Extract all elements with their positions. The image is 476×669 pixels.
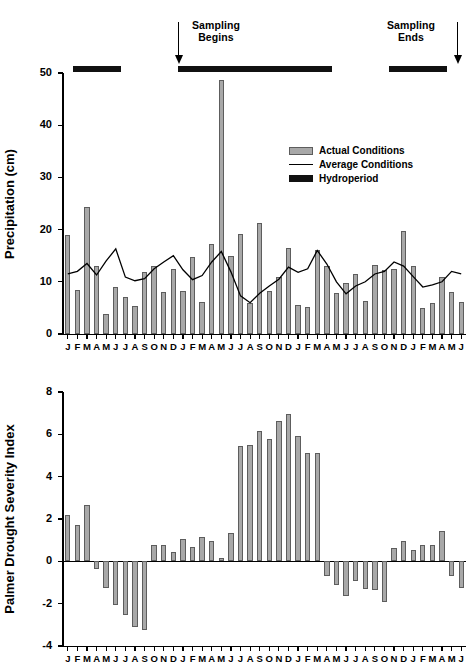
precipitation-bar	[247, 303, 252, 334]
precipitation-bar	[401, 231, 406, 334]
precipitation-bar	[94, 266, 99, 334]
pdsi-bar	[84, 505, 89, 561]
x-axis-tick	[144, 335, 145, 339]
legend-label-actual: Actual Conditions	[319, 145, 405, 156]
x-axis-tick	[461, 647, 462, 651]
legend-label-average: Average Conditions	[319, 159, 413, 170]
x-axis-tick	[163, 335, 164, 339]
x-axis-tick	[134, 335, 135, 339]
annotation-line-2: Ends	[378, 32, 444, 44]
annotation-line-2: Begins	[181, 32, 251, 44]
x-axis-tick	[413, 647, 414, 651]
y-axis-tick-label: 10	[22, 275, 52, 287]
x-axis-tick	[355, 647, 356, 651]
precipitation-bar	[363, 301, 368, 334]
pdsi-bar	[439, 531, 444, 562]
pdsi-bar	[401, 541, 406, 561]
x-axis-tick	[297, 335, 298, 339]
x-axis-tick	[192, 335, 193, 339]
precipitation-bar	[286, 248, 291, 334]
precipitation-bar	[132, 306, 137, 334]
x-axis-tick	[144, 647, 145, 651]
y-axis-tick	[58, 645, 63, 646]
y-axis-tick	[58, 434, 63, 435]
precipitation-bar	[372, 265, 377, 334]
precipitation-bar	[142, 272, 147, 334]
x-axis-tick	[336, 647, 337, 651]
pdsi-bar	[103, 561, 108, 587]
x-axis-tick	[355, 335, 356, 339]
precipitation-bar	[391, 269, 396, 334]
y-axis-tick-label: 8	[22, 385, 52, 397]
pdsi-bar	[209, 541, 214, 561]
precipitation-bar	[315, 250, 320, 334]
x-axis-tick	[250, 335, 251, 339]
x-axis-tick	[336, 335, 337, 339]
x-axis-tick	[192, 647, 193, 651]
pdsi-bar	[411, 550, 416, 562]
pdsi-bar	[94, 561, 99, 568]
y-axis-tick-label: 30	[22, 170, 52, 182]
x-axis-tick	[393, 647, 394, 651]
y-axis-tick-label: -4	[22, 639, 52, 651]
x-axis-tick	[374, 647, 375, 651]
x-axis-tick	[326, 335, 327, 339]
x-axis-tick	[86, 335, 87, 339]
pdsi-bar	[449, 561, 454, 576]
precipitation-bar	[411, 266, 416, 334]
x-axis-tick	[278, 335, 279, 339]
annotation-sampling-ends: Sampling Ends	[378, 20, 444, 43]
x-axis-tick	[77, 647, 78, 651]
x-axis-tick	[413, 335, 414, 339]
pdsi-bar	[75, 525, 80, 561]
x-axis-tick	[297, 647, 298, 651]
y-axis-tick-label: 2	[22, 512, 52, 524]
pdsi-y-axis-title: Palmer Drought Severity Index	[2, 424, 17, 613]
y-axis-tick	[58, 125, 63, 126]
precipitation-bar	[382, 270, 387, 334]
x-axis-tick	[269, 647, 270, 651]
x-axis-tick	[154, 647, 155, 651]
x-axis-tick	[173, 647, 174, 651]
x-axis-tick	[441, 335, 442, 339]
x-axis-tick	[307, 647, 308, 651]
precipitation-bar	[103, 314, 108, 334]
pdsi-bar	[180, 539, 185, 561]
pdsi-bar	[334, 561, 339, 584]
pdsi-bar	[113, 561, 118, 604]
x-axis-tick-label: J	[456, 341, 467, 352]
x-axis-tick	[125, 647, 126, 651]
precipitation-bar	[353, 274, 358, 334]
pdsi-bar	[363, 561, 368, 589]
x-axis-tick	[384, 335, 385, 339]
precipitation-bar	[334, 293, 339, 334]
x-axis-tick	[422, 647, 423, 651]
pdsi-bar	[315, 453, 320, 561]
x-axis-tick	[393, 335, 394, 339]
precipitation-bar	[420, 308, 425, 334]
x-axis-tick-label: J	[456, 653, 467, 664]
x-axis-tick	[432, 335, 433, 339]
x-axis-tick	[134, 647, 135, 651]
pdsi-bar	[391, 548, 396, 562]
pdsi-bar	[142, 561, 147, 630]
pdsi-bar	[305, 453, 310, 561]
precipitation-bar	[267, 291, 272, 334]
precipitation-bar	[238, 234, 243, 334]
x-axis-tick	[211, 647, 212, 651]
x-axis-tick	[307, 335, 308, 339]
x-axis-tick	[441, 647, 442, 651]
x-axis-tick	[345, 335, 346, 339]
x-axis-tick	[374, 335, 375, 339]
pdsi-bar	[430, 545, 435, 561]
pdsi-bar	[382, 561, 387, 601]
x-axis-tick	[182, 335, 183, 339]
precipitation-bar	[199, 302, 204, 334]
x-axis-tick	[403, 335, 404, 339]
pdsi-bar	[171, 552, 176, 562]
y-axis-tick	[58, 177, 63, 178]
y-axis-line	[62, 392, 63, 646]
pdsi-bar	[247, 445, 252, 561]
precipitation-bar	[123, 297, 128, 334]
x-axis-tick	[384, 647, 385, 651]
